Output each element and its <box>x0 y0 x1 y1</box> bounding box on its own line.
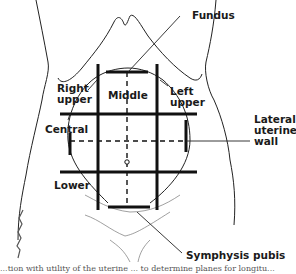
label-fundus: Fundus <box>192 10 235 21</box>
umbilicus-marker <box>125 160 129 164</box>
label-lower: Lower <box>54 180 90 191</box>
figure-caption: ...tion with utility of the uterine ... … <box>0 264 296 274</box>
label-central: Central <box>45 124 88 135</box>
skin-fold-4 <box>138 240 150 262</box>
label-middle: Middle <box>108 90 148 101</box>
label-symphysis-pubis: Symphysis pubis <box>186 250 285 261</box>
label-right-upper: Right upper <box>57 83 92 105</box>
uterus-diagram <box>0 0 296 274</box>
skin-fold-2 <box>85 212 170 236</box>
torso-outline-left <box>18 0 48 240</box>
label-left-upper: Left upper <box>170 86 205 108</box>
skin-fold-3 <box>110 240 130 262</box>
label-lateral-uterine-wall: Lateral uterine wall <box>254 114 296 147</box>
torso-outline-right <box>205 0 234 225</box>
leader-symphysis <box>137 212 182 253</box>
